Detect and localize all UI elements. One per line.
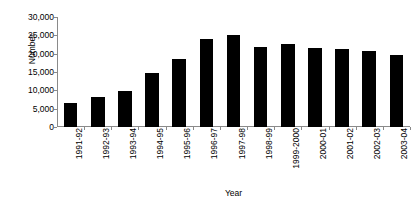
x-axis-tick-mark: [410, 127, 411, 130]
y-axis-tick-label: 15,000: [14, 68, 54, 77]
y-axis-tick-label: 30,000: [14, 13, 54, 22]
y-axis-tick-label: 0: [14, 123, 54, 132]
x-axis-tick-label-text: 1992-93: [102, 128, 111, 159]
x-axis-tick-label-text: 1991-92: [75, 128, 84, 159]
y-axis-tick-label: 25,000: [14, 31, 54, 40]
x-axis-tick-label-text: 2002-03: [373, 128, 382, 159]
x-axis-tick-label-text: 1996-97: [210, 128, 219, 159]
x-axis-tick-label-text: 2001-02: [346, 128, 355, 159]
x-axis-tick-label-text: 1994-95: [156, 128, 165, 159]
x-axis-tick-label-text: 1999-2000: [292, 128, 301, 169]
x-axis-tick-label-text: 1997-98: [238, 128, 247, 159]
y-axis-tick-label: 20,000: [14, 50, 54, 59]
x-axis-tick-label: 1993-94: [129, 97, 138, 128]
x-axis-tick-label-text: 1998-99: [265, 128, 274, 159]
x-axis-tick-label: 1992-93: [102, 97, 111, 128]
x-axis-tick-label: 1994-95: [156, 97, 165, 128]
x-axis-tick-label: 1996-97: [210, 97, 219, 128]
x-axis-tick-label: 1995-96: [183, 97, 192, 128]
x-axis-tick-label: 2001-02: [346, 97, 355, 128]
x-axis-tick-label: 2003-04: [400, 97, 409, 128]
x-axis-tick-label: 1998-99: [265, 97, 274, 128]
x-axis-tick-label: 2000-01: [319, 97, 328, 128]
x-axis-tick-label-text: 2003-04: [400, 128, 409, 159]
y-axis-tick-label: 5,000: [14, 105, 54, 114]
x-axis-tick-label: 2002-03: [373, 97, 382, 128]
x-axis-tick-label: 1999-2000: [292, 87, 301, 128]
x-axis-tick-label-text: 2000-01: [319, 128, 328, 159]
x-axis-tick-label-text: 1993-94: [129, 128, 138, 159]
x-axis-title: Year: [57, 188, 410, 198]
y-axis-tick-label-group: 05,00010,00015,00020,00025,00030,000: [14, 12, 54, 132]
x-axis-tick-label: 1991-92: [75, 97, 84, 128]
x-axis-tick-label-group: 1991-921992-931993-941994-951995-961996-…: [57, 128, 410, 184]
x-axis-tick-label-text: 1995-96: [183, 128, 192, 159]
x-axis-tick-label: 1997-98: [238, 97, 247, 128]
bar-chart-figure: Number 05,00010,00015,00020,00025,00030,…: [0, 0, 419, 207]
y-axis-tick-label: 10,000: [14, 86, 54, 95]
